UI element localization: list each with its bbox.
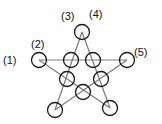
pentagram-diagram xyxy=(0,0,162,124)
node-circles xyxy=(32,25,135,118)
label-4: (4) xyxy=(89,9,102,20)
edge-top-bottomright xyxy=(82,32,110,108)
label-5: (5) xyxy=(134,47,147,58)
label-3: (3) xyxy=(61,11,74,22)
label-2: (2) xyxy=(31,39,44,50)
star-lines xyxy=(39,32,127,110)
label-1: (1) xyxy=(3,55,16,66)
node-circle-inner-bottom xyxy=(76,85,91,100)
